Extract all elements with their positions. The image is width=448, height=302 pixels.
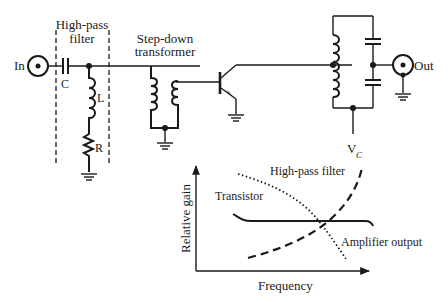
gain-chart: Relative gain Frequency High-pass filter… bbox=[178, 164, 423, 293]
ground-icon bbox=[157, 143, 173, 149]
transformer-primary bbox=[151, 66, 165, 128]
ground-icon bbox=[81, 174, 97, 180]
capacitor-label: C bbox=[61, 77, 69, 91]
inductor-label: L bbox=[97, 91, 104, 105]
output-connector bbox=[393, 55, 413, 100]
input-connector bbox=[28, 56, 48, 76]
filter-title-line2: filter bbox=[69, 31, 95, 46]
transistor-label: Transistor bbox=[215, 189, 263, 203]
resistor-r bbox=[84, 128, 93, 172]
inductor-l bbox=[89, 66, 95, 128]
amplifier-output-label: Amplifier output bbox=[341, 235, 423, 249]
capacitor-c bbox=[63, 58, 68, 74]
y-axis-label: Relative gain bbox=[178, 184, 193, 253]
transformer-secondary bbox=[165, 81, 178, 128]
x-axis-label: Frequency bbox=[258, 278, 313, 293]
input-label: In bbox=[14, 58, 25, 73]
circuit-diagram: In C High-pass filter L R Step-down tran… bbox=[0, 0, 448, 302]
tank-circuit bbox=[330, 16, 393, 111]
transistor-icon bbox=[220, 65, 352, 121]
supply-subscript: C bbox=[356, 150, 363, 160]
amplifier-output-curve bbox=[233, 214, 373, 226]
high-pass-filter-label: High-pass filter bbox=[270, 164, 345, 178]
transformer-title-line2: transformer bbox=[135, 44, 196, 59]
filter-title-line1: High-pass bbox=[56, 17, 109, 32]
transistor-curve bbox=[238, 174, 346, 259]
resistor-label: R bbox=[95, 141, 103, 155]
output-label: Out bbox=[414, 58, 434, 73]
